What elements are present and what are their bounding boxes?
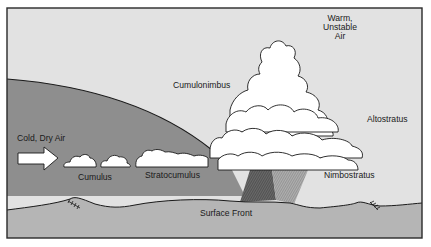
warm-air-label: Warm, Unstable Air [312,14,368,41]
surface-front-label: Surface Front [200,209,252,218]
nimbostratus-label: Nimbostratus [324,171,375,180]
warm-air-label-line3: Air [312,32,368,41]
cold-dry-air-label: Cold, Dry Air [17,134,65,143]
stratocumulus-label: Stratocumulus [145,171,200,180]
cumulus-label: Cumulus [78,173,112,182]
cumulonimbus-label: Cumulonimbus [173,81,230,90]
altostratus-label: Altostratus [367,115,408,124]
